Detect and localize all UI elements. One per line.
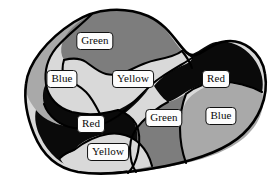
region-label-yellow-center[interactable]: Yellow bbox=[112, 70, 154, 88]
region-label-text: Yellow bbox=[92, 145, 124, 157]
region-label-blue-right[interactable]: Blue bbox=[205, 107, 236, 125]
region-label-text: Blue bbox=[210, 109, 231, 121]
region-label-blue-left[interactable]: Blue bbox=[46, 70, 77, 88]
region-label-red-right[interactable]: Red bbox=[202, 70, 230, 88]
region-label-red-left[interactable]: Red bbox=[77, 115, 105, 133]
region-label-text: Green bbox=[81, 34, 108, 46]
region-label-green-center[interactable]: Green bbox=[145, 109, 182, 127]
region-label-text: Red bbox=[207, 72, 225, 84]
map-regions-svg bbox=[0, 0, 279, 193]
region-label-green-top[interactable]: Green bbox=[76, 32, 113, 50]
region-label-text: Green bbox=[150, 111, 177, 123]
region-label-text: Yellow bbox=[117, 72, 149, 84]
region-label-text: Blue bbox=[51, 72, 72, 84]
region-label-text: Red bbox=[82, 117, 100, 129]
map-coloring-figure: Green Blue Yellow Red Green Blue Red Yel… bbox=[0, 0, 279, 193]
region-label-yellow-bottom[interactable]: Yellow bbox=[87, 143, 129, 161]
